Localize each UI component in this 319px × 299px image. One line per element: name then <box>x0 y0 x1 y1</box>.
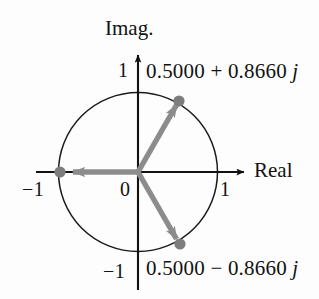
root-point-lower <box>174 238 185 249</box>
complex-plane-figure: Imag. Real 1 −1 1 −1 0 0.5000 + 0.8660 j… <box>0 0 319 299</box>
phasor-vector-upper <box>138 105 177 172</box>
imaginary-unit-symbol: j <box>292 256 298 280</box>
root-point-upper <box>173 95 184 106</box>
tick-label-imag-negative-one: −1 <box>103 261 125 281</box>
origin-label: 0 <box>120 179 130 199</box>
tick-label-real-negative-one: −1 <box>22 179 44 199</box>
annotation-upper-root: 0.5000 + 0.8660 j <box>146 61 298 82</box>
imaginary-unit-symbol: j <box>292 59 298 83</box>
tick-label-real-positive-one: 1 <box>220 179 230 199</box>
real-axis-label: Real <box>254 160 292 181</box>
root-point-left <box>54 166 65 177</box>
annotation-lower-root: 0.5000 − 0.8660 j <box>146 258 298 279</box>
imag-axis-label: Imag. <box>105 18 153 39</box>
phasor-vector-lower <box>138 172 177 239</box>
tick-label-imag-positive-one: 1 <box>118 60 128 80</box>
plot-canvas <box>0 0 319 299</box>
